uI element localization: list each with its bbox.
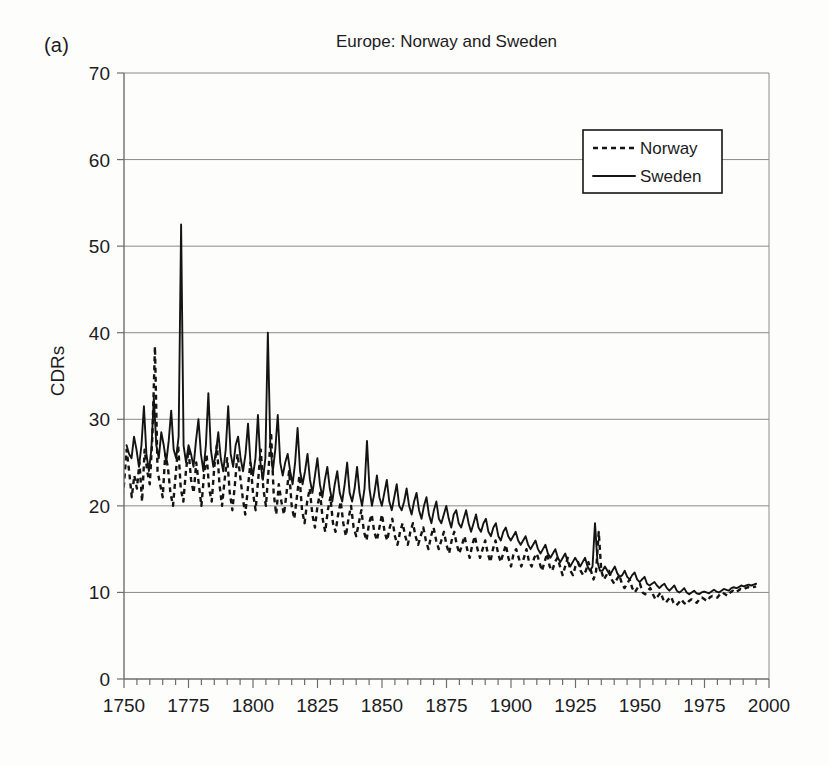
- gridlines: [124, 160, 769, 593]
- series-line-sweden: [127, 225, 757, 595]
- legend-label-norway: Norway: [640, 139, 698, 158]
- y-tick-marks: [117, 73, 124, 679]
- y-tick-label-60: 60: [89, 150, 110, 171]
- x-tick-label-1825: 1825: [296, 695, 338, 716]
- y-tick-label-30: 30: [89, 409, 110, 430]
- data-series-layer: [85, 225, 756, 606]
- x-tick-label-1800: 1800: [232, 695, 274, 716]
- figure-root: (a) Europe: Norway and Sweden CDRs 01020…: [0, 0, 829, 765]
- x-tick-marks: [124, 679, 769, 688]
- y-tick-label-0: 0: [99, 669, 110, 690]
- y-tick-label-70: 70: [89, 63, 110, 84]
- y-tick-label-40: 40: [89, 323, 110, 344]
- x-tick-label-2000: 2000: [748, 695, 790, 716]
- legend-label-sweden: Sweden: [640, 167, 701, 186]
- chart-plot-area: 010203040506070 175017751800182518501875…: [0, 0, 829, 765]
- x-tick-label-1750: 1750: [103, 695, 145, 716]
- x-tick-label-1900: 1900: [490, 695, 532, 716]
- x-tick-label-1875: 1875: [425, 695, 467, 716]
- x-tick-label-1775: 1775: [167, 695, 209, 716]
- x-tick-label-1975: 1975: [683, 695, 725, 716]
- x-tick-label-1950: 1950: [619, 695, 661, 716]
- y-tick-labels: 010203040506070: [89, 63, 110, 690]
- y-tick-label-10: 10: [89, 582, 110, 603]
- x-tick-label-1850: 1850: [361, 695, 403, 716]
- y-tick-label-50: 50: [89, 236, 110, 257]
- series-line-norway: [85, 347, 756, 606]
- x-tick-label-1925: 1925: [554, 695, 596, 716]
- y-tick-label-20: 20: [89, 496, 110, 517]
- chart-legend: NorwaySweden: [583, 130, 722, 193]
- x-tick-labels: 1750177518001825185018751900192519501975…: [103, 695, 790, 716]
